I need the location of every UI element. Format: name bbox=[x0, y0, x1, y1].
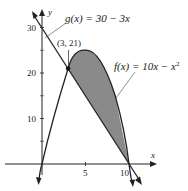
x-axis-label: x bbox=[150, 150, 155, 160]
intersection-point bbox=[66, 66, 70, 70]
f-equation-exponent: 2 bbox=[176, 60, 180, 68]
x-tick-label-5: 5 bbox=[83, 168, 88, 178]
f-label-leader bbox=[116, 72, 135, 98]
g-top-arrow-icon bbox=[32, 11, 38, 19]
g-bottom-arrow-icon bbox=[135, 177, 142, 186]
y-tick-label-20: 20 bbox=[27, 68, 37, 78]
area-between-curves-chart: y x 5 10 10 20 30 g(x) = 30 − 3x (3, 21)… bbox=[0, 0, 188, 191]
y-tick-label-10: 10 bbox=[27, 114, 37, 124]
y-axis-label: y bbox=[47, 7, 52, 17]
f-equation-text: f(x) = 10x − x bbox=[114, 60, 176, 73]
intersection-label: (3, 21) bbox=[57, 38, 81, 48]
x-axis-arrow-icon bbox=[150, 161, 157, 167]
y-tick-label-30: 30 bbox=[27, 23, 37, 33]
g-label-leader bbox=[45, 23, 66, 38]
y-axis-arrow-icon bbox=[39, 9, 45, 16]
g-equation-label: g(x) = 30 − 3x bbox=[65, 12, 130, 25]
f-left-arrow-icon bbox=[36, 177, 42, 185]
f-equation-label: f(x) = 10x − x2 bbox=[114, 60, 180, 73]
x-tick-label-10: 10 bbox=[120, 168, 130, 178]
f-right-arrow-icon bbox=[130, 180, 136, 188]
g-line bbox=[33, 14, 140, 181]
